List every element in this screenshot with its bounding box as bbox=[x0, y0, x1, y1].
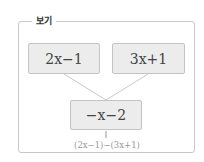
connector-lines bbox=[0, 0, 204, 162]
expression-text: 3x+1 bbox=[130, 51, 167, 67]
expression-text: −x−2 bbox=[86, 107, 126, 123]
expression-box-top-right: 3x+1 bbox=[112, 43, 185, 74]
expression-box-top-left: 2x−1 bbox=[28, 43, 100, 74]
connector-left bbox=[64, 74, 106, 100]
expression-box-result: −x−2 bbox=[70, 100, 142, 130]
expression-text: 2x−1 bbox=[45, 51, 82, 67]
calculation-annotation: (2x−1)−(3x+1) bbox=[62, 140, 152, 150]
connector-right bbox=[106, 74, 148, 100]
